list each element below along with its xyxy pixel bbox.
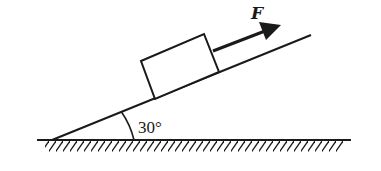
- diagram-svg: F 30°: [0, 0, 381, 171]
- force-label: F: [250, 3, 265, 23]
- incline-diagram: F 30°: [0, 0, 381, 171]
- angle-arc: [122, 112, 135, 140]
- block: [141, 34, 219, 99]
- force-arrow-shaft: [213, 31, 265, 51]
- angle-label: 30°: [138, 118, 162, 137]
- ground-hatching: [45, 141, 343, 156]
